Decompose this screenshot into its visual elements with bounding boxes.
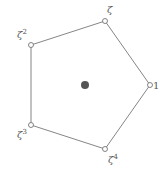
- vertex-1: [148, 83, 153, 88]
- vertex-zeta4: [103, 147, 108, 152]
- label-zeta: ζ: [107, 4, 113, 15]
- vertex-zeta3: [29, 123, 34, 128]
- label-zeta2: ζ2: [17, 28, 27, 40]
- label-1: 1: [153, 80, 159, 91]
- center-dot: [81, 81, 89, 89]
- roots-of-unity-diagram: 1 ζ ζ2 ζ3 ζ4: [0, 0, 164, 179]
- pentagon-canvas: 1 ζ ζ2 ζ3 ζ4: [0, 0, 164, 179]
- label-zeta3: ζ3: [17, 128, 27, 140]
- label-zeta4: ζ4: [108, 153, 118, 165]
- vertex-zeta2: [29, 43, 34, 48]
- vertex-zeta: [103, 19, 108, 24]
- pentagon-edges: [31, 21, 150, 149]
